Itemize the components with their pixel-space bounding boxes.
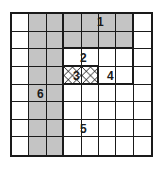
grid-cell bbox=[99, 102, 116, 120]
grid-cell bbox=[116, 32, 133, 50]
grid-cell bbox=[12, 67, 29, 85]
region-label-3: 3 bbox=[73, 70, 80, 82]
grid-cell bbox=[116, 67, 133, 85]
grid-cell bbox=[134, 85, 151, 103]
grid-cell bbox=[47, 32, 64, 50]
grid-cell bbox=[134, 14, 151, 32]
grid-cell bbox=[47, 14, 64, 32]
grid-cell bbox=[29, 49, 46, 67]
region-label-1: 1 bbox=[97, 16, 104, 28]
region-label-6: 6 bbox=[37, 88, 44, 100]
grid-cell bbox=[47, 85, 64, 103]
grid-cell bbox=[29, 32, 46, 50]
grid-cell bbox=[47, 137, 64, 155]
grid-cell bbox=[47, 102, 64, 120]
grid-cell bbox=[134, 32, 151, 50]
grid-cell bbox=[82, 85, 99, 103]
grid-cell bbox=[134, 102, 151, 120]
grid-cell bbox=[64, 120, 81, 138]
grid-cell bbox=[47, 120, 64, 138]
grid-cell bbox=[64, 32, 81, 50]
grid-cell bbox=[116, 137, 133, 155]
grid-cell bbox=[47, 67, 64, 85]
grid-cell bbox=[29, 67, 46, 85]
grid-cell bbox=[134, 120, 151, 138]
grid-cell bbox=[64, 137, 81, 155]
grid-cell bbox=[29, 120, 46, 138]
grid-cell bbox=[64, 49, 81, 67]
grid-cell bbox=[12, 102, 29, 120]
grid-cell bbox=[99, 85, 116, 103]
grid-cell bbox=[99, 137, 116, 155]
grid-cell bbox=[12, 49, 29, 67]
grid-cell bbox=[99, 120, 116, 138]
grid-cell bbox=[134, 67, 151, 85]
grid-cell bbox=[134, 49, 151, 67]
grid-cell bbox=[29, 14, 46, 32]
grid-cell bbox=[29, 102, 46, 120]
grid-cell bbox=[82, 67, 99, 85]
grid-cell bbox=[64, 102, 81, 120]
region-label-2: 2 bbox=[80, 52, 87, 64]
grid-cell bbox=[116, 120, 133, 138]
grid-cell bbox=[12, 85, 29, 103]
grid-cell bbox=[12, 120, 29, 138]
grid-cell bbox=[12, 137, 29, 155]
grid-cell bbox=[99, 49, 116, 67]
grid-cell bbox=[29, 137, 46, 155]
grid-cell bbox=[116, 14, 133, 32]
grid-cell bbox=[99, 32, 116, 50]
grid-cell bbox=[47, 49, 64, 67]
grid-cell bbox=[134, 137, 151, 155]
grid-cell bbox=[116, 102, 133, 120]
grid-cell bbox=[116, 49, 133, 67]
grid-cell bbox=[82, 102, 99, 120]
grid-cell bbox=[64, 14, 81, 32]
grid-cell bbox=[82, 137, 99, 155]
grid-cell bbox=[12, 32, 29, 50]
grid-cell bbox=[64, 85, 81, 103]
grid-cell bbox=[12, 14, 29, 32]
region-label-4: 4 bbox=[107, 70, 114, 82]
region-label-5: 5 bbox=[80, 123, 87, 135]
grid-cell bbox=[82, 32, 99, 50]
grid-cell bbox=[116, 85, 133, 103]
